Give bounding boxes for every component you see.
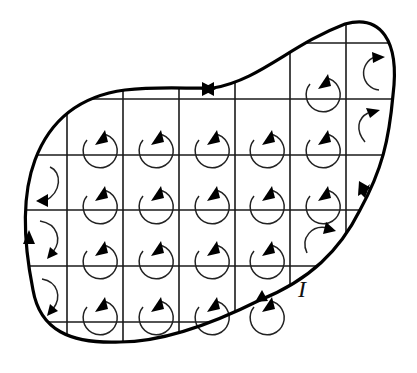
circulation-diagram: I [0,0,417,373]
current-label: I [297,276,307,302]
loop-icon [250,241,284,279]
partial-loop-icon [359,108,380,142]
boundary-curve [25,22,394,342]
loop-icon [83,186,117,224]
partial-loop-icon [364,52,385,90]
loop-icon [195,241,229,279]
loop-icon [250,130,284,168]
partial-loop-icon [40,221,58,259]
loop-icon [306,186,340,224]
partial-loop-icon [42,279,58,316]
loop-icon [83,130,117,168]
loop-icon [139,241,173,279]
loop-icon [306,74,340,112]
loop-icon [250,186,284,224]
loop-icon [139,130,173,168]
loop-icon [139,297,173,335]
loop-icon [83,297,117,335]
loop-icon [139,186,173,224]
partial-loop-icon [36,167,58,207]
grid [0,0,417,373]
partial-loop-icon [305,222,336,253]
loop-icon [83,241,117,279]
loop-icon [195,130,229,168]
loop-icon [306,130,340,168]
loop-icon [195,186,229,224]
